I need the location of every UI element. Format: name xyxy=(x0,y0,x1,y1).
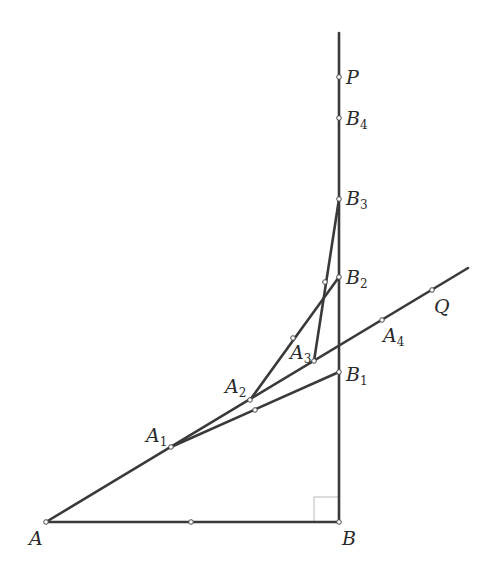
point-Q xyxy=(430,288,435,293)
point-A xyxy=(44,520,49,525)
point-B1 xyxy=(337,370,342,375)
point-A1 xyxy=(169,445,174,450)
label-A3: A3 xyxy=(290,343,311,365)
label-B2: B2 xyxy=(346,268,368,290)
point-A3 xyxy=(312,359,317,364)
label-A1: A1 xyxy=(146,426,167,448)
point-A2 xyxy=(248,398,253,403)
ray-AQ xyxy=(46,268,468,522)
midpoint-AB xyxy=(189,520,194,525)
label-A2: A2 xyxy=(225,377,246,399)
label-B3: B3 xyxy=(346,189,368,211)
point-B2 xyxy=(337,275,342,280)
point-B xyxy=(337,520,342,525)
right-angle-mark xyxy=(314,497,339,522)
midpoint-A3B3 xyxy=(323,280,328,285)
label-P: P xyxy=(346,68,359,90)
midpoint-A1B1 xyxy=(253,408,258,413)
geometry-figure: A B P B4 B3 B2 B1 A1 A2 A3 A4 Q xyxy=(0,0,492,583)
label-B: B xyxy=(342,529,356,551)
label-Q: Q xyxy=(434,297,450,319)
point-P xyxy=(337,75,342,80)
label-A: A xyxy=(29,529,43,551)
label-A4: A4 xyxy=(383,326,404,348)
point-B3 xyxy=(337,197,342,202)
label-B4: B4 xyxy=(346,109,368,131)
label-B1: B1 xyxy=(346,365,368,387)
midpoint-A2B2 xyxy=(291,336,296,341)
point-B4 xyxy=(337,116,342,121)
figure-canvas xyxy=(0,0,492,583)
point-A4 xyxy=(380,318,385,323)
